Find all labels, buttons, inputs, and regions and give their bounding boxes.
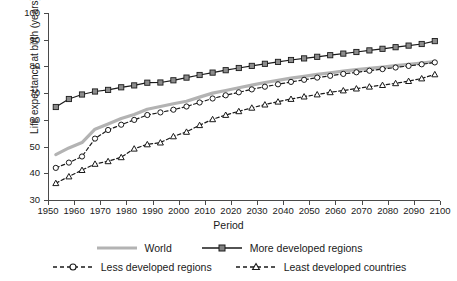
legend-label-least-developed-countries: Least developed countries — [284, 261, 407, 273]
y-tick-label: 50 — [12, 142, 40, 152]
data-point-more-developed-regions — [119, 85, 124, 90]
legend-swatch-least-developed-countries — [234, 261, 278, 273]
data-point-more-developed-regions — [262, 61, 267, 66]
data-point-more-developed-regions — [406, 43, 411, 48]
data-point-least-developed-countries — [66, 174, 72, 179]
data-point-more-developed-regions — [53, 104, 58, 109]
data-point-least-developed-countries — [184, 129, 190, 134]
data-point-least-developed-countries — [131, 146, 137, 151]
x-tick-label: 2100 — [425, 206, 455, 216]
data-point-least-developed-countries — [118, 154, 124, 159]
data-point-more-developed-regions — [106, 87, 111, 92]
y-tick-label: 30 — [12, 195, 40, 205]
data-point-more-developed-regions — [210, 70, 215, 75]
data-point-less-developed-regions — [53, 165, 58, 170]
data-point-less-developed-regions — [184, 104, 189, 109]
series-line-less-developed-regions — [56, 62, 435, 167]
data-point-more-developed-regions — [367, 48, 372, 53]
data-point-less-developed-regions — [419, 62, 424, 67]
data-point-less-developed-regions — [275, 82, 280, 87]
data-point-more-developed-regions — [432, 39, 437, 44]
data-point-more-developed-regions — [184, 75, 189, 80]
data-point-less-developed-regions — [145, 112, 150, 117]
data-point-more-developed-regions — [132, 83, 137, 88]
data-point-least-developed-countries — [432, 71, 438, 76]
data-point-less-developed-regions — [106, 127, 111, 132]
data-point-less-developed-regions — [197, 100, 202, 105]
data-point-less-developed-regions — [119, 122, 124, 127]
legend-item-less-developed-regions[interactable]: Less developed regions — [51, 261, 212, 273]
data-point-more-developed-regions — [288, 57, 293, 62]
legend-swatch-more-developed-regions — [200, 242, 244, 254]
data-point-less-developed-regions — [432, 60, 437, 65]
y-tick-label: 40 — [12, 168, 40, 178]
series-line-more-developed-regions — [56, 41, 435, 107]
data-point-more-developed-regions — [223, 68, 228, 73]
legend-item-world[interactable]: World — [95, 242, 172, 254]
data-point-least-developed-countries — [79, 167, 85, 172]
data-point-less-developed-regions — [210, 96, 215, 101]
data-point-less-developed-regions — [328, 73, 333, 78]
legend-label-less-developed-regions: Less developed regions — [101, 261, 212, 273]
data-point-less-developed-regions — [302, 77, 307, 82]
x-axis-line — [48, 200, 440, 201]
data-point-less-developed-regions — [341, 71, 346, 76]
data-point-less-developed-regions — [66, 160, 71, 165]
data-point-least-developed-countries — [105, 158, 111, 163]
legend-label-world: World — [145, 242, 172, 254]
data-point-less-developed-regions — [393, 65, 398, 70]
y-tick-label: 90 — [12, 35, 40, 45]
data-point-more-developed-regions — [341, 51, 346, 56]
data-point-less-developed-regions — [249, 87, 254, 92]
data-point-less-developed-regions — [236, 90, 241, 95]
data-point-more-developed-regions — [145, 80, 150, 85]
data-point-more-developed-regions — [197, 72, 202, 77]
data-point-more-developed-regions — [393, 45, 398, 50]
data-point-least-developed-countries — [262, 102, 268, 107]
data-point-less-developed-regions — [132, 117, 137, 122]
data-point-less-developed-regions — [171, 107, 176, 112]
data-point-more-developed-regions — [66, 96, 71, 101]
data-point-more-developed-regions — [315, 54, 320, 59]
legend-label-more-developed-regions: More developed regions — [250, 242, 363, 254]
data-point-less-developed-regions — [380, 67, 385, 72]
data-point-less-developed-regions — [158, 110, 163, 115]
data-point-more-developed-regions — [236, 65, 241, 70]
y-axis-label: Life expectancy at birth (years) — [29, 0, 40, 151]
chart-figure: Life expectancy at birth (years) 3040506… — [0, 0, 457, 281]
data-point-less-developed-regions — [367, 68, 372, 73]
data-point-more-developed-regions — [158, 80, 163, 85]
x-axis-label: Period — [0, 219, 457, 231]
data-point-more-developed-regions — [419, 41, 424, 46]
legend-item-least-developed-countries[interactable]: Least developed countries — [234, 261, 407, 273]
data-point-less-developed-regions — [223, 93, 228, 98]
data-point-less-developed-regions — [315, 75, 320, 80]
data-point-more-developed-regions — [328, 53, 333, 58]
data-point-more-developed-regions — [249, 63, 254, 68]
plot-area — [48, 13, 440, 200]
data-point-more-developed-regions — [92, 89, 97, 94]
y-tick-label: 70 — [12, 88, 40, 98]
data-point-less-developed-regions — [354, 70, 359, 75]
data-point-least-developed-countries — [314, 92, 320, 97]
data-point-less-developed-regions — [288, 79, 293, 84]
y-tick-label: 100 — [12, 8, 40, 18]
series-line-world — [56, 62, 435, 155]
data-point-least-developed-countries — [53, 180, 59, 185]
y-tick-label: 60 — [12, 115, 40, 125]
chart-legend: World More developed regions — [0, 238, 457, 276]
legend-swatch-world — [95, 242, 139, 254]
data-point-more-developed-regions — [302, 56, 307, 61]
data-point-more-developed-regions — [79, 92, 84, 97]
data-point-less-developed-regions — [406, 63, 411, 68]
data-point-more-developed-regions — [171, 78, 176, 83]
legend-row-1: World More developed regions — [0, 238, 457, 257]
data-point-less-developed-regions — [92, 136, 97, 141]
series-canvas — [48, 13, 440, 200]
data-point-less-developed-regions — [79, 154, 84, 159]
series-line-least-developed-countries — [56, 74, 435, 183]
legend-item-more-developed-regions[interactable]: More developed regions — [200, 242, 363, 254]
data-point-more-developed-regions — [380, 46, 385, 51]
data-point-more-developed-regions — [275, 59, 280, 64]
y-tick-label: 80 — [12, 61, 40, 71]
